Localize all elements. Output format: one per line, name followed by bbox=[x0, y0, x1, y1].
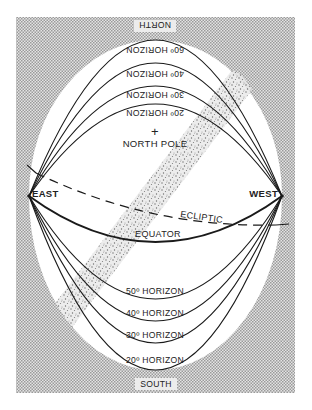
upper-horizon-label-40: 40º HORIZON bbox=[126, 69, 184, 79]
north-label: NORTH bbox=[139, 20, 171, 30]
lower-horizon-label-30: 30º HORIZON bbox=[126, 330, 184, 340]
east-label: EAST bbox=[32, 188, 59, 199]
upper-horizon-label-20: 20º HORIZON bbox=[126, 108, 184, 118]
upper-horizon-label-60: 60º HORIZON bbox=[126, 45, 184, 55]
west-label: WEST bbox=[249, 188, 278, 199]
east-point bbox=[27, 194, 31, 198]
north-pole-marker: + bbox=[151, 124, 159, 139]
upper-horizon-label-30: 30º HORIZON bbox=[126, 90, 184, 100]
west-point bbox=[280, 194, 284, 198]
lower-horizon-label-50: 50º HORIZON bbox=[126, 286, 184, 296]
south-label: SOUTH bbox=[140, 379, 172, 389]
lower-horizon-label-20: 20º HORIZON bbox=[126, 355, 184, 365]
equator-label: EQUATOR bbox=[135, 229, 181, 239]
celestial-horizon-diagram: NORTH 60º HORIZON 40º HORIZON 30º HORIZO… bbox=[0, 0, 312, 410]
lower-horizon-label-40: 40º HORIZON bbox=[126, 308, 184, 318]
north-pole-label: NORTH POLE bbox=[123, 138, 188, 149]
